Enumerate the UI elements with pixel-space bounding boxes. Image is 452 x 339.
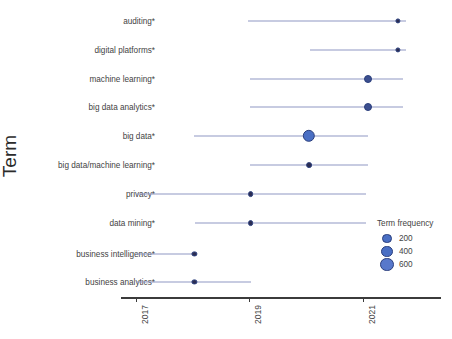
range-line (310, 50, 406, 51)
x-tick-label-2017: 2017 (140, 305, 150, 324)
data-point[interactable] (396, 47, 401, 52)
legend: Term frequency 200 400 600 (377, 219, 452, 271)
x-tick-label-2019: 2019 (253, 305, 263, 324)
legend-label-400: 400 (399, 247, 413, 256)
range-line (250, 107, 403, 108)
legend-item-600[interactable]: 600 (377, 258, 452, 271)
data-point[interactable] (192, 251, 197, 256)
range-line (250, 79, 403, 80)
data-point[interactable] (306, 162, 312, 168)
range-line (248, 21, 405, 22)
legend-title: Term frequency (377, 219, 452, 228)
legend-circle-icon (382, 234, 391, 243)
legend-item-200[interactable]: 200 (377, 232, 452, 245)
range-line (195, 223, 366, 224)
legend-swatch-400-box (377, 246, 397, 257)
data-point[interactable] (396, 18, 401, 23)
data-point[interactable] (303, 130, 315, 142)
x-axis-line (121, 297, 441, 299)
legend-label-600: 600 (399, 260, 413, 269)
legend-item-400[interactable]: 400 (377, 245, 452, 258)
x-tick-2019 (249, 297, 250, 302)
legend-label-200: 200 (399, 234, 413, 243)
x-tick-label-2021: 2021 (367, 305, 377, 324)
range-line (194, 136, 368, 137)
data-point[interactable] (364, 75, 372, 83)
term-timeline-chart: Term auditing* digital platforms* machin… (0, 0, 452, 339)
data-point[interactable] (248, 191, 254, 197)
data-point[interactable] (364, 103, 372, 111)
data-point[interactable] (192, 279, 197, 284)
range-line (136, 254, 196, 255)
legend-circle-icon (380, 258, 394, 272)
legend-circle-icon (381, 246, 392, 257)
data-point[interactable] (248, 220, 254, 226)
x-tick-2017 (136, 297, 137, 302)
legend-swatch-200-box (377, 234, 397, 243)
x-tick-2021 (363, 297, 364, 302)
legend-swatch-600-box (377, 258, 397, 272)
